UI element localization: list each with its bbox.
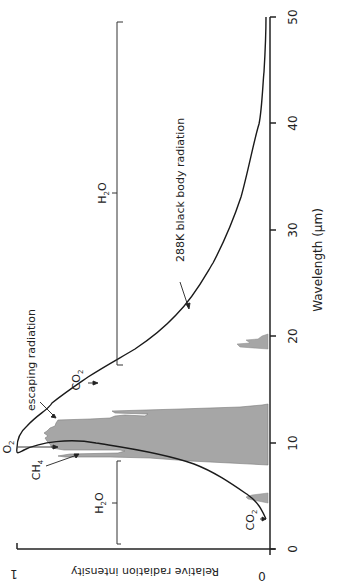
wavelength-ticks: 50 40 30 20 10 0 xyxy=(286,9,300,552)
escaping-radiation-area xyxy=(44,334,268,503)
h2o-bracket-high xyxy=(112,22,123,365)
blackbody-label: 288K black body radiation xyxy=(174,118,187,262)
x-tick-40: 40 xyxy=(286,115,300,130)
radiation-chart: 50 40 30 20 10 0 Wavelength (μm) 1 0 Rel… xyxy=(0,0,344,586)
y-tick-1: 1 xyxy=(10,567,18,581)
x-tick-20: 20 xyxy=(286,328,300,343)
annotations: H2O H2O CO2 CH4 O2 escaping radiation CO… xyxy=(1,118,259,531)
h2o-high-label: H2O xyxy=(96,182,111,204)
h2o-low-label: H2O xyxy=(93,492,108,514)
intensity-axis-label: Relative radiation intensity xyxy=(70,565,219,578)
axes xyxy=(17,17,276,555)
co2-mid-label: CO2 xyxy=(70,370,85,391)
co2-low-label: CO2 xyxy=(244,510,259,531)
h2o-bracket-low xyxy=(112,461,121,544)
x-tick-30: 30 xyxy=(286,222,300,237)
x-tick-50: 50 xyxy=(286,9,300,24)
o2-label: O2 xyxy=(1,440,16,453)
annotation-arrows xyxy=(18,282,266,521)
ch4-label: CH4 xyxy=(30,459,45,480)
y-tick-0: 0 xyxy=(258,569,266,583)
escaping-radiation-label: escaping radiation xyxy=(25,309,38,411)
wavelength-axis-label: Wavelength (μm) xyxy=(311,208,325,312)
x-tick-0: 0 xyxy=(286,545,300,553)
x-tick-10: 10 xyxy=(286,435,300,450)
